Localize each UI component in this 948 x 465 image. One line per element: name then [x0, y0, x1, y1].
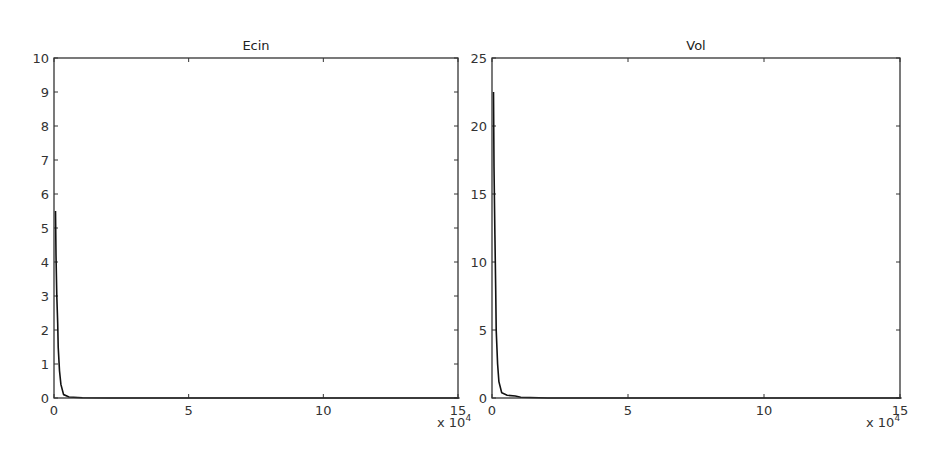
x-tick-label: 5 — [185, 403, 193, 418]
y-tick-label: 20 — [470, 119, 487, 134]
y-tick-label: 25 — [470, 51, 487, 66]
x-multiplier-base: x 10 — [437, 415, 465, 430]
x-tick-label: 0 — [50, 403, 58, 418]
x-multiplier-vol: x 104 — [866, 413, 900, 430]
plot-vol: Vol 0510152025051015 x 104 — [470, 38, 908, 430]
y-tick-label: 10 — [32, 51, 49, 66]
axes-box-ecin — [54, 58, 458, 398]
y-tick-label: 7 — [41, 153, 49, 168]
y-tick-label: 1 — [41, 357, 49, 372]
x-tick-label: 10 — [315, 403, 332, 418]
plot-title-ecin: Ecin — [242, 38, 269, 53]
y-tick-label: 0 — [41, 391, 49, 406]
ticks-ecin: 012345678910051015 — [32, 51, 466, 418]
y-tick-label: 6 — [41, 187, 49, 202]
series-line-vol — [494, 92, 902, 398]
y-tick-label: 4 — [41, 255, 49, 270]
y-tick-label: 5 — [479, 323, 487, 338]
plot-ecin: Ecin 012345678910051015 x 104 — [32, 38, 471, 430]
x-multiplier-base: x 10 — [866, 415, 894, 430]
axes-box-vol — [492, 58, 900, 398]
x-multiplier-ecin: x 104 — [437, 413, 471, 430]
y-tick-label: 0 — [479, 391, 487, 406]
x-multiplier-exp: 4 — [894, 413, 900, 423]
x-tick-label: 10 — [756, 403, 773, 418]
y-tick-label: 8 — [41, 119, 49, 134]
y-tick-label: 9 — [41, 85, 49, 100]
y-tick-label: 2 — [41, 323, 49, 338]
plot-title-vol: Vol — [686, 38, 705, 53]
x-multiplier-exp: 4 — [465, 413, 471, 423]
x-tick-label: 0 — [488, 403, 496, 418]
y-tick-label: 5 — [41, 221, 49, 236]
figure: Ecin 012345678910051015 x 104 Vol 051015… — [0, 0, 948, 465]
y-tick-label: 10 — [470, 255, 487, 270]
x-tick-label: 5 — [624, 403, 632, 418]
series-line-ecin — [56, 211, 460, 398]
y-tick-label: 3 — [41, 289, 49, 304]
ticks-vol: 0510152025051015 — [470, 51, 908, 418]
y-tick-label: 15 — [470, 187, 487, 202]
